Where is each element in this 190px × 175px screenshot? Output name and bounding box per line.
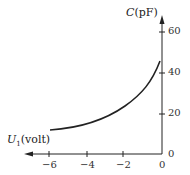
x-axis-arrow-icon <box>24 152 33 157</box>
x-tick-label: 0 <box>159 159 165 170</box>
y-tick-label: 60 <box>168 25 181 36</box>
chart-canvas <box>0 0 190 175</box>
x-tick-label: −2 <box>116 159 131 170</box>
y-axis-arrow-icon <box>160 15 165 24</box>
x-tick-label: −4 <box>80 159 95 170</box>
x-tick-label: −6 <box>42 159 57 170</box>
y-tick-label: 20 <box>168 107 181 118</box>
y-tick-label: 40 <box>168 66 181 77</box>
capacitance-curve <box>50 61 160 130</box>
x-axis-label: U1(volt) <box>7 133 50 148</box>
y-axis-label: C(pF) <box>126 6 158 19</box>
y-tick-label: 0 <box>168 148 174 159</box>
